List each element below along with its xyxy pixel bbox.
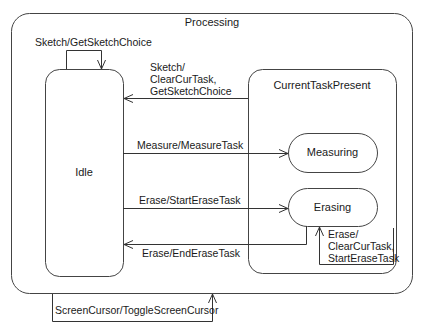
measuring-state-label: Measuring	[288, 146, 377, 158]
transition-label-erasing-self: Erase/ ClearCurTask, StartEraseTask	[328, 228, 399, 264]
transition-label-erase-end: Erase/EndEraseTask	[142, 247, 240, 259]
transition-label-screencursor: ScreenCursor/ToggleScreenCursor	[55, 304, 218, 316]
idle-state-label: Idle	[45, 166, 123, 178]
label-line: StartEraseTask	[328, 252, 399, 264]
transition-erasing-to-idle	[124, 226, 307, 245]
current-task-present-label: CurrentTaskPresent	[248, 79, 396, 91]
transition-label-erase-start: Erase/StartEraseTask	[139, 194, 241, 206]
label-line: Sketch/	[150, 61, 232, 73]
label-line: ClearCurTask,	[150, 73, 232, 85]
erasing-state-label: Erasing	[288, 201, 377, 213]
transition-label-sketch-getsketchchoice: Sketch/GetSketchChoice	[35, 36, 152, 48]
processing-state-label: Processing	[182, 16, 242, 28]
state-diagram-canvas	[0, 0, 424, 329]
transition-label-measure: Measure/MeasureTask	[137, 139, 243, 151]
transition-idle-self-loop	[67, 51, 102, 70]
label-line: GetSketchChoice	[150, 85, 232, 97]
transition-label-sketch-clear: Sketch/ ClearCurTask, GetSketchChoice	[150, 61, 232, 97]
label-line: ClearCurTask,	[328, 240, 399, 252]
label-line: Erase/	[328, 228, 399, 240]
